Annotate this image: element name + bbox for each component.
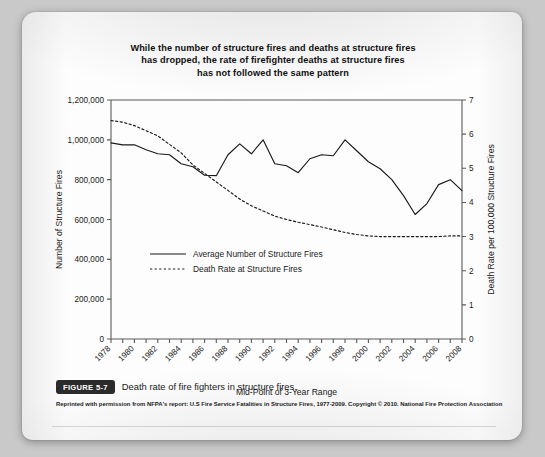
svg-text:7: 7 <box>469 96 474 105</box>
svg-text:1998: 1998 <box>327 344 347 364</box>
svg-text:1982: 1982 <box>140 344 160 364</box>
svg-text:1996: 1996 <box>304 344 324 364</box>
figure-attribution: Reprinted with permission from NFPA's re… <box>56 401 506 407</box>
svg-text:Average Number of Structure Fi: Average Number of Structure Fires <box>193 249 323 259</box>
svg-text:2008: 2008 <box>444 344 464 364</box>
svg-text:1: 1 <box>469 301 474 310</box>
svg-text:400,000: 400,000 <box>74 255 104 264</box>
svg-text:1988: 1988 <box>210 344 230 364</box>
svg-text:2004: 2004 <box>397 344 417 364</box>
svg-text:2002: 2002 <box>374 344 394 364</box>
svg-text:1992: 1992 <box>257 344 277 364</box>
svg-text:6: 6 <box>469 130 474 139</box>
svg-text:Death Rate at Structure Fires: Death Rate at Structure Fires <box>193 264 302 274</box>
figure-caption-text: Death rate of fire fighters in structure… <box>122 381 297 392</box>
svg-text:2: 2 <box>469 267 474 276</box>
svg-text:2006: 2006 <box>421 344 441 364</box>
svg-text:5: 5 <box>469 164 474 173</box>
svg-text:4: 4 <box>469 198 474 207</box>
svg-text:1978: 1978 <box>93 344 113 364</box>
svg-text:0: 0 <box>469 335 474 344</box>
page-divider <box>52 426 496 427</box>
svg-text:1984: 1984 <box>163 344 183 364</box>
scanned-page: While the number of structure fires and … <box>22 12 522 440</box>
svg-text:1986: 1986 <box>187 344 207 364</box>
svg-text:1980: 1980 <box>117 344 137 364</box>
svg-text:1994: 1994 <box>280 344 300 364</box>
svg-text:1,000,000: 1,000,000 <box>68 136 105 145</box>
svg-text:2000: 2000 <box>351 344 371 364</box>
figure-number-badge: FIGURE 5-7 <box>56 380 115 394</box>
svg-text:3: 3 <box>469 233 474 242</box>
svg-text:800,000: 800,000 <box>74 176 104 185</box>
figure-caption-row: FIGURE 5-7 Death rate of fire fighters i… <box>56 380 496 394</box>
svg-text:1,200,000: 1,200,000 <box>68 96 105 105</box>
dual-axis-line-chart: 0200,000400,000600,000800,0001,000,0001,… <box>22 12 522 440</box>
svg-text:600,000: 600,000 <box>74 216 104 225</box>
svg-text:Death Rate per 100,000 Structu: Death Rate per 100,000 Structure Fires <box>486 144 496 294</box>
svg-text:Number of Structure Fires: Number of Structure Fires <box>54 170 64 269</box>
chart-plot-area: 0200,000400,000600,000800,0001,000,0001,… <box>22 12 522 440</box>
svg-text:1990: 1990 <box>234 344 254 364</box>
svg-text:0: 0 <box>99 335 104 344</box>
svg-text:200,000: 200,000 <box>74 295 104 304</box>
